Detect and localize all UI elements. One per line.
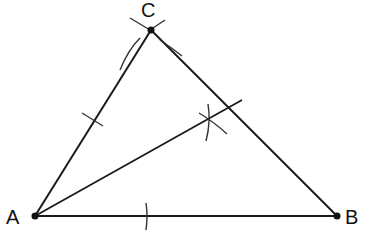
vertex-label-a: A — [6, 207, 19, 227]
side-cb — [151, 30, 337, 216]
triangle-diagram — [0, 0, 366, 235]
vertex-b-dot — [334, 213, 341, 220]
angle-bisector — [35, 100, 242, 216]
vertex-c-dot — [148, 27, 155, 34]
side-ac — [35, 30, 151, 216]
vertex-a-dot — [32, 213, 39, 220]
vertex-label-b: B — [345, 207, 358, 227]
construction-arc-c-right — [160, 40, 182, 56]
vertex-label-c: C — [141, 0, 155, 20]
construction-arc-bisector-1 — [206, 104, 209, 141]
